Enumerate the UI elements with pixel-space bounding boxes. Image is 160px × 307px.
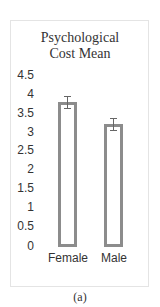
y-tick-label: 1 bbox=[0, 201, 34, 213]
chart-title: Psychological Cost Mean bbox=[0, 30, 160, 62]
y-tick-label: 0.5 bbox=[0, 220, 34, 232]
error-cap-female-bottom bbox=[64, 108, 71, 109]
bar-male bbox=[104, 124, 123, 247]
error-cap-female-top bbox=[64, 96, 71, 97]
x-label-female: Female bbox=[43, 251, 93, 265]
y-tick-label: 4 bbox=[0, 88, 34, 100]
y-tick-label: 0 bbox=[0, 240, 34, 252]
y-tick-label: 3 bbox=[0, 126, 34, 138]
error-cap-male-bottom bbox=[110, 130, 117, 131]
error-bar-female bbox=[67, 96, 68, 108]
chart-title-line-1: Psychological bbox=[0, 30, 160, 46]
figure-caption: (a) bbox=[0, 290, 160, 305]
y-tick-label: 1.5 bbox=[0, 182, 34, 194]
chart-title-line-2: Cost Mean bbox=[0, 46, 160, 62]
y-tick-label: 4.5 bbox=[0, 69, 34, 81]
y-tick-label: 2.5 bbox=[0, 144, 34, 156]
y-tick-label: 3.5 bbox=[0, 107, 34, 119]
x-label-male: Male bbox=[89, 251, 139, 265]
bar-female bbox=[58, 102, 77, 247]
error-bar-male bbox=[113, 118, 114, 130]
error-cap-male-top bbox=[110, 118, 117, 119]
y-tick-label: 2 bbox=[0, 163, 34, 175]
